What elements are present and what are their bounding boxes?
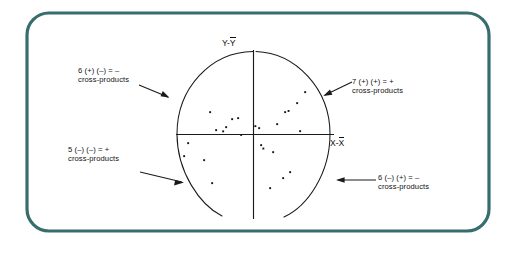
annotation-lower-left: 5 (–) (–) = + cross-products [68, 145, 119, 164]
y-axis-label: Y-Y [222, 38, 236, 48]
annotation-upper-right: 7 (+) (+) = + cross-products [352, 77, 403, 96]
annotation-upper-left-line1: 6 (+) (–) = – [78, 66, 129, 75]
x-bar-letter: X [339, 138, 345, 148]
annotation-lower-right-line1: 6 (–) (+) = – [378, 173, 429, 182]
x-axis-label: X-X [330, 138, 344, 148]
annotation-upper-right-line2: cross-products [352, 86, 403, 95]
annotation-lower-right: 6 (–) (+) = – cross-products [378, 173, 429, 192]
overbar-rule-y [230, 37, 236, 38]
y-bar-letter: Y [230, 38, 236, 48]
figure-container: Y-Y X-X 6 (+) (–) = – cross-products 7 (… [0, 0, 515, 257]
x-axis-label-overbar: X [339, 138, 345, 148]
y-axis-label-prefix: Y- [222, 38, 230, 48]
overbar-rule-x [339, 137, 345, 138]
annotation-lower-left-line2: cross-products [68, 154, 119, 163]
y-axis-label-overbar: Y [230, 38, 236, 48]
annotation-upper-right-line1: 7 (+) (+) = + [352, 77, 403, 86]
annotation-upper-left: 6 (+) (–) = – cross-products [78, 66, 129, 85]
figure-border [27, 13, 489, 231]
annotation-lower-left-line1: 5 (–) (–) = + [68, 145, 119, 154]
x-axis-label-prefix: X- [330, 138, 339, 148]
scatter-diagram [0, 0, 515, 257]
annotation-upper-left-line2: cross-products [78, 75, 129, 84]
annotation-lower-right-line2: cross-products [378, 182, 429, 191]
